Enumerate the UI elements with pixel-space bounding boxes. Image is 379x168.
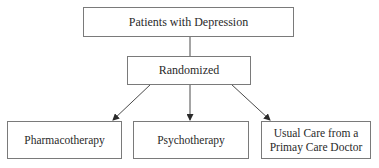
node-psychotherapy: Psychotherapy: [133, 121, 249, 159]
node-usual-care: Usual Care from a Primay Care Doctor: [261, 121, 371, 159]
node-pharmacotherapy: Pharmacotherapy: [7, 121, 122, 159]
node-label: Patients with Depression: [129, 15, 248, 30]
randomization-flowchart: Patients with Depression Randomized Phar…: [0, 0, 379, 168]
node-label: Pharmacotherapy: [24, 133, 104, 147]
node-label: Randomized: [159, 63, 220, 78]
node-label: Psychotherapy: [157, 133, 225, 147]
node-randomized: Randomized: [127, 56, 251, 85]
node-patients-with-depression: Patients with Depression: [83, 7, 294, 37]
edge-randomized-to-pharmacotherapy: [113, 84, 151, 120]
edge-randomized-to-usual-care: [231, 84, 270, 120]
node-label: Usual Care from a Primay Care Doctor: [270, 126, 363, 155]
